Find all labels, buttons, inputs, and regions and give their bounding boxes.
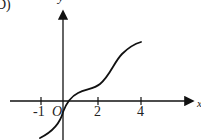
origin-label: O bbox=[52, 104, 62, 120]
option-label: D) bbox=[0, 0, 11, 13]
function-curve bbox=[40, 42, 141, 138]
y-axis-label: y bbox=[58, 0, 64, 5]
tick-label-2: 2 bbox=[94, 104, 101, 120]
tick-label-neg1: -1 bbox=[33, 104, 45, 120]
tick-label-4: 4 bbox=[137, 104, 144, 120]
x-axis-label: x bbox=[197, 97, 201, 109]
